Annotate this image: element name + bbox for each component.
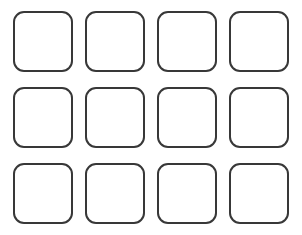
tile-r3-c4[interactable] [229,163,289,224]
tile-r1-c3[interactable] [157,11,217,72]
tile-r2-c2[interactable] [85,87,145,148]
tile-r1-c1[interactable] [13,11,73,72]
tile-r3-c3[interactable] [157,163,217,224]
tile-grid [0,0,302,235]
tile-r1-c2[interactable] [85,11,145,72]
tile-r1-c4[interactable] [229,11,289,72]
tile-r3-c2[interactable] [85,163,145,224]
tile-r2-c4[interactable] [229,87,289,148]
tile-r3-c1[interactable] [13,163,73,224]
tile-r2-c1[interactable] [13,87,73,148]
tile-r2-c3[interactable] [157,87,217,148]
